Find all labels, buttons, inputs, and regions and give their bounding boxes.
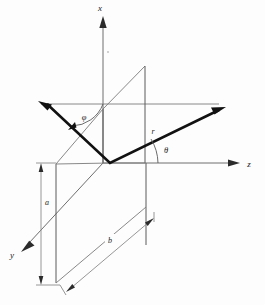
dimension-a-top-arrowhead	[39, 163, 44, 172]
bold-vector-group	[38, 101, 226, 163]
z-axis-label: z	[246, 159, 251, 169]
figure-root: x y z r θ φ a b	[0, 0, 265, 305]
upper-plane-diagonal	[103, 66, 145, 109]
dimension-b-label: b	[108, 236, 112, 245]
phi-angle-label: φ	[82, 112, 87, 122]
x-axis-label: x	[97, 3, 102, 13]
y-axis-label: y	[9, 250, 14, 260]
x-axis-tick-dot	[107, 51, 109, 53]
lower-vertical-plane	[56, 109, 146, 283]
y-axis-line	[29, 163, 103, 243]
bold-vector-path	[47, 104, 219, 163]
x-axis	[99, 16, 108, 163]
horizontal-reference-lines	[41, 66, 219, 163]
x-axis-arrowhead	[99, 16, 106, 28]
radius-vector-label: r	[151, 127, 155, 136]
dimension-a-label: a	[45, 198, 49, 207]
dimension-b-line	[71, 222, 149, 288]
dimension-b-left-witness	[60, 285, 66, 295]
dimension-b	[60, 212, 154, 295]
theta-angle-label: θ	[164, 145, 168, 155]
dimension-a-bottom-arrowhead	[39, 276, 44, 285]
lower-plane-bottom-diagonal	[56, 207, 146, 283]
negative-y-arrowhead	[38, 101, 52, 111]
y-axis-arrowhead	[21, 241, 35, 252]
z-axis-arrowhead	[228, 159, 240, 166]
y-axis	[21, 163, 103, 252]
coordinate-diagram: x y z r θ φ a b	[0, 0, 265, 305]
